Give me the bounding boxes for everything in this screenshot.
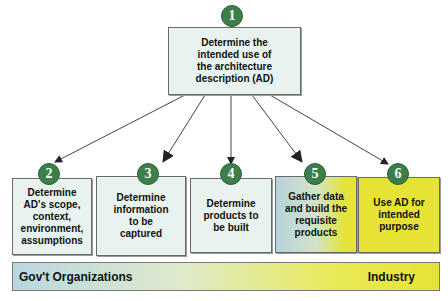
step-6-box: Use AD for intended purpose (358, 177, 440, 253)
step-6-number-badge: 6 (387, 163, 409, 185)
step-2-text: Determine AD's scope, context, environme… (21, 187, 84, 247)
step-1-number-badge: 1 (221, 5, 243, 27)
step-3-text: Determine information to be captured (114, 192, 169, 240)
step-5-box: Gather data and build the requisite prod… (275, 176, 357, 253)
step-4-number-badge: 4 (220, 163, 242, 185)
step-2-box: Determine AD's scope, context, environme… (12, 178, 92, 255)
step-5-number-badge: 5 (304, 163, 326, 185)
step-6-text: Use AD for intended purpose (373, 197, 424, 233)
step-5-text: Gather data and build the requisite prod… (285, 191, 347, 239)
step-4-box: Determine products to be built (190, 178, 272, 253)
step-3-box: Determine information to be captured (96, 176, 186, 256)
step-1-text: Determine the intended use of the archit… (196, 37, 274, 85)
step-4-text: Determine products to be built (204, 198, 259, 234)
step-1-box: Determine the intended use of the archit… (168, 27, 301, 95)
step-3-number-badge: 3 (137, 163, 159, 185)
step-2-number-badge: 2 (38, 163, 60, 185)
